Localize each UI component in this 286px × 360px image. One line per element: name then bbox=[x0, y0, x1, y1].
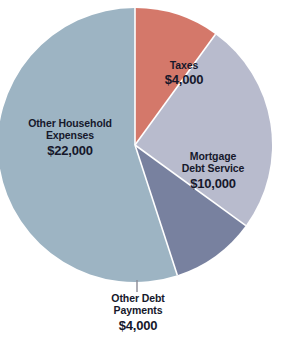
pie-label-taxes: Taxes $4,000 bbox=[132, 59, 236, 88]
pie-label-otherdebt-line2: Payments bbox=[78, 304, 198, 316]
pie-label-other-debt-payments: Other Debt Payments $4,000 bbox=[78, 292, 198, 333]
pie-label-mortgage-value: $10,000 bbox=[160, 176, 266, 191]
pie-label-household-line2: Expenses bbox=[6, 129, 134, 141]
pie-chart: Taxes $4,000 Mortgage Debt Service $10,0… bbox=[0, 0, 286, 360]
pie-label-mortgage-line2: Debt Service bbox=[160, 162, 266, 174]
pie-label-household-line1: Other Household bbox=[6, 117, 134, 129]
pie-label-other-household-expenses: Other Household Expenses $22,000 bbox=[6, 117, 134, 158]
pie-label-household-value: $22,000 bbox=[6, 143, 134, 158]
pie-label-mortgage-line1: Mortgage bbox=[160, 150, 266, 162]
pie-label-taxes-value: $4,000 bbox=[132, 72, 236, 87]
pie-label-taxes-line1: Taxes bbox=[132, 59, 236, 71]
pie-label-otherdebt-value: $4,000 bbox=[78, 318, 198, 333]
pie-label-mortgage-debt-service: Mortgage Debt Service $10,000 bbox=[160, 150, 266, 191]
pie-label-otherdebt-line1: Other Debt bbox=[78, 292, 198, 304]
